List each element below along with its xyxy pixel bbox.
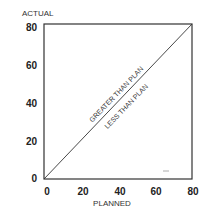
x-tick-60: 60 xyxy=(150,186,162,197)
x-tick-0: 0 xyxy=(44,186,50,197)
y-tick-60: 60 xyxy=(26,60,38,71)
y-tick-40: 40 xyxy=(26,98,38,109)
plot-svg: ACTUAL PLANNED 80 60 40 20 0 0 20 40 60 … xyxy=(0,0,210,213)
x-tick-80: 80 xyxy=(187,186,199,197)
y-tick-80: 80 xyxy=(26,22,38,33)
y-tick-20: 20 xyxy=(26,136,38,147)
x-tick-40: 40 xyxy=(114,186,126,197)
y-axis-label: ACTUAL xyxy=(22,9,54,18)
x-axis-label: PLANNED xyxy=(93,199,131,208)
chart: ACTUAL PLANNED 80 60 40 20 0 0 20 40 60 … xyxy=(0,0,210,213)
y-tick-0: 0 xyxy=(31,173,37,184)
x-tick-20: 20 xyxy=(77,186,89,197)
